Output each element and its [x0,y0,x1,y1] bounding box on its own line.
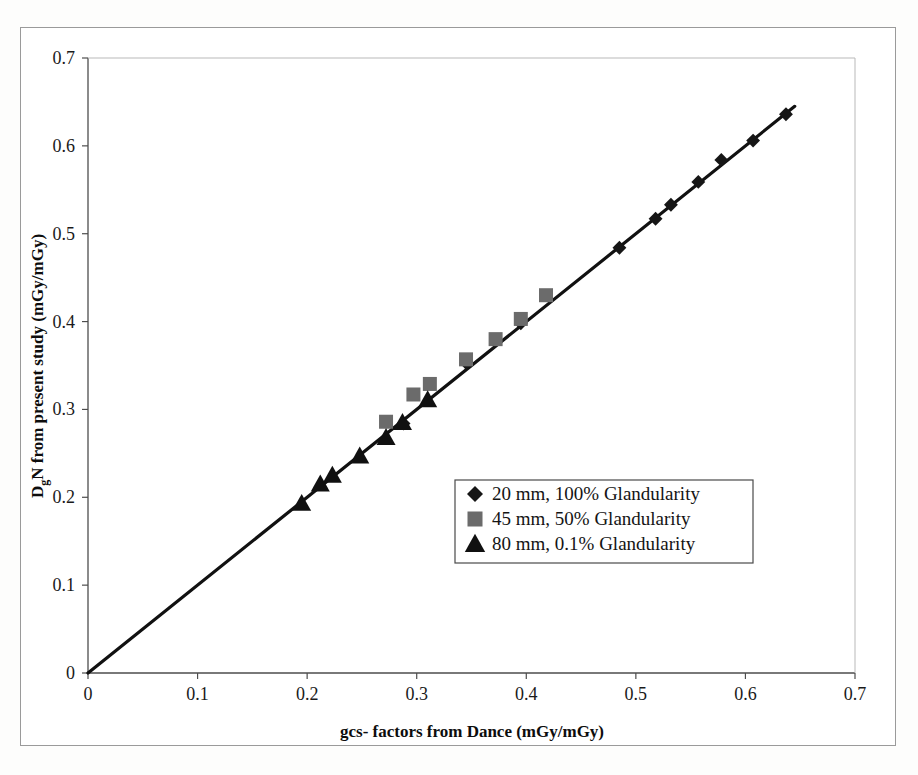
identity-line [88,106,795,673]
y-axis-title-part1: D [28,486,47,498]
data-point-square [423,377,437,391]
data-point-square [459,352,473,366]
legend-item-1: 20 mm, 100% Glandularity [467,483,700,504]
data-point-square [489,332,503,346]
legend-entries: 20 mm, 100% Glandularity45 mm, 50% Gland… [465,483,701,554]
y-tick-label: 0.2 [53,487,76,507]
y-axis-title: DgN from present study (mGy/mGy) [28,234,51,498]
legend-label: 45 mm, 50% Glandularity [492,508,691,529]
trendline [88,106,795,673]
y-tick-label: 0 [66,663,75,683]
x-tick-label: 0.1 [186,684,209,704]
x-axis-title: gcs- factors from Dance (mGy/mGy) [340,722,604,741]
data-point-square [379,415,393,429]
x-tick-label: 0.5 [625,684,648,704]
chart-legend: 20 mm, 100% Glandularity45 mm, 50% Gland… [455,480,753,563]
scatter-chart: 00.10.20.30.40.50.60.7 00.10.20.30.40.50… [0,0,918,775]
y-axis-title-part2: N from present study (mGy/mGy) [28,234,47,480]
data-point-triangle [418,390,437,407]
y-tick-label: 0.4 [53,312,76,332]
x-tick-label: 0.3 [405,684,428,704]
svg-text:DgN from present study (mGy/mG: DgN from present study (mGy/mGy) [28,234,51,498]
data-point-square [406,387,420,401]
x-tick-label: 0 [84,684,93,704]
data-point-triangle [323,466,342,483]
legend-item-3: 80 mm, 0.1% Glandularity [465,533,696,554]
data-point-square [514,312,528,326]
y-tick-label: 0.7 [53,48,76,68]
x-tick-label: 0.6 [734,684,757,704]
y-tick-label: 0.1 [53,575,76,595]
y-tick-labels: 00.10.20.30.40.50.60.7 [53,48,76,683]
x-tick-label: 0.4 [515,684,538,704]
y-tick-label: 0.3 [53,399,76,419]
legend-label: 80 mm, 0.1% Glandularity [492,533,696,554]
data-point-square [539,288,553,302]
x-tick-label: 0.2 [296,684,319,704]
figure-container: 00.10.20.30.40.50.60.7 00.10.20.30.40.50… [0,0,918,775]
y-tick-label: 0.6 [53,136,76,156]
legend-label: 20 mm, 100% Glandularity [492,483,700,504]
data-point-diamond [714,153,728,167]
y-tick-label: 0.5 [53,224,76,244]
x-tick-labels: 00.10.20.30.40.50.60.7 [84,684,867,704]
legend-marker-square [468,512,483,527]
series-2 [379,288,553,429]
legend-item-2: 45 mm, 50% Glandularity [468,508,691,529]
x-tick-label: 0.7 [844,684,867,704]
